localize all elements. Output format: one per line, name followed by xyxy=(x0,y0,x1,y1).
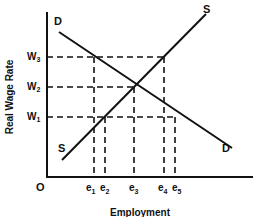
labor-market-chart: D D S S W3 W2 W1 O e1 e2 e3 e4 e5 Employ… xyxy=(0,0,253,217)
x-axis-title: Employment xyxy=(110,207,171,217)
demand-label-end: D xyxy=(222,142,230,154)
demand-label-start: D xyxy=(54,15,62,27)
e1-label: e1 xyxy=(86,182,96,195)
w1-label: W1 xyxy=(27,111,40,123)
e5-label: e5 xyxy=(172,182,182,195)
e4-label: e4 xyxy=(158,182,168,195)
y-axis-title: Real Wage Rate xyxy=(4,59,15,134)
origin-label: O xyxy=(36,181,45,193)
w3-label: W3 xyxy=(27,51,40,63)
w2-label: W2 xyxy=(27,81,40,93)
demand-curve xyxy=(59,32,232,148)
e3-label: e3 xyxy=(129,182,139,195)
supply-label-start: S xyxy=(58,142,65,154)
e2-label: e2 xyxy=(100,182,110,195)
supply-label-end: S xyxy=(203,3,210,15)
